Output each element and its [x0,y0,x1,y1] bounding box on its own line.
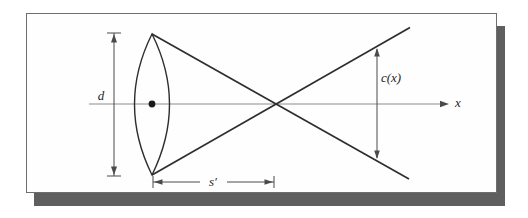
ray-upper-to-lower [152,34,409,179]
d-dimension-down-arrow-icon [111,167,117,176]
label-circle-of-confusion: c(x) [381,71,401,84]
x-axis-arrow-icon [440,101,449,107]
ray-lower-to-upper [152,28,410,176]
lens-diagram [27,14,496,192]
c-dimension-down-arrow-icon [374,151,380,160]
s-dimension-left-arrow-icon [154,179,163,185]
c-dimension-up-arrow-icon [374,48,380,57]
d-dimension-up-arrow-icon [111,34,117,43]
label-lens-diameter: d [98,89,105,102]
label-x-axis: x [455,96,461,109]
label-image-distance: s′ [206,175,220,188]
figure-frame: d s′ c(x) x [26,13,497,193]
figure-canvas: d s′ c(x) x [0,0,528,218]
lens-center-dot [149,101,156,108]
rays [152,28,410,180]
s-dimension-right-arrow-icon [265,179,274,185]
